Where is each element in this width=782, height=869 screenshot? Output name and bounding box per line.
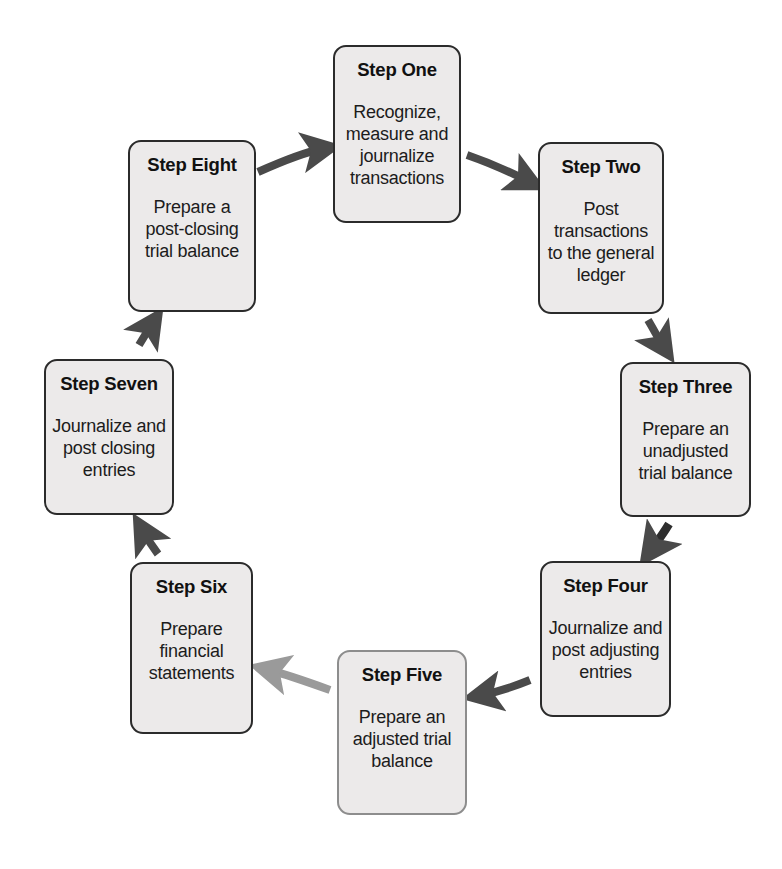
step-one-box[interactable]: Step OneRecognize,measure andjournalizet…: [333, 45, 461, 223]
step-four-box[interactable]: Step FourJournalize andpost adjustingent…: [540, 561, 671, 717]
step-two-description: Posttransactionsto the generalledger: [548, 199, 655, 287]
step-eight-box[interactable]: Step EightPrepare apost-closingtrial bal…: [128, 140, 256, 312]
step-four-title: Step Four: [563, 575, 648, 596]
step-eight-description: Prepare apost-closingtrial balance: [145, 197, 239, 263]
arrow-six-to-seven: [143, 531, 158, 554]
arrow-seven-to-eight: [139, 324, 152, 345]
step-seven-description: Journalize andpost closingentries: [52, 416, 166, 482]
step-two-box[interactable]: Step TwoPosttransactionsto the generalle…: [538, 142, 664, 314]
step-one-description: Recognize,measure andjournalizetransacti…: [346, 102, 448, 190]
accounting-cycle-diagram: Step OneRecognize,measure andjournalizet…: [0, 0, 782, 869]
step-six-description: Preparefinancialstatements: [149, 619, 235, 685]
step-three-title: Step Three: [639, 376, 733, 397]
step-seven-box[interactable]: Step SevenJournalize andpost closingentr…: [44, 359, 174, 515]
step-three-description: Prepare anunadjustedtrial balance: [639, 419, 733, 485]
step-six-box[interactable]: Step SixPreparefinancialstatements: [130, 562, 253, 734]
arrow-three-to-four: [652, 524, 669, 549]
step-one-title: Step One: [357, 59, 437, 80]
step-three-box[interactable]: Step ThreePrepare anunadjustedtrial bala…: [620, 362, 751, 517]
step-five-title: Step Five: [362, 664, 442, 685]
arrow-one-to-two: [467, 155, 528, 181]
step-two-title: Step Two: [561, 156, 640, 177]
step-five-box[interactable]: Step FivePrepare anadjusted trialbalance: [337, 650, 467, 815]
step-four-description: Journalize andpost adjustingentries: [549, 618, 663, 684]
step-seven-title: Step Seven: [60, 373, 158, 394]
step-eight-title: Step Eight: [147, 154, 236, 175]
arrow-two-to-three: [648, 320, 663, 346]
step-five-description: Prepare anadjusted trialbalance: [353, 707, 452, 773]
arrow-five-to-six: [269, 670, 330, 690]
step-six-title: Step Six: [156, 576, 227, 597]
arrow-eight-to-one: [258, 149, 322, 172]
arrow-four-to-five: [482, 680, 530, 695]
